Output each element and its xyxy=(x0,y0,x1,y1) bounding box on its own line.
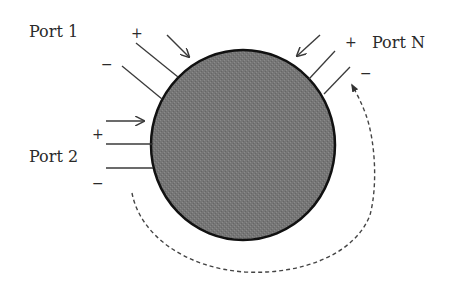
port-n-minus-terminal xyxy=(324,67,350,94)
port-n-current-arrow-icon xyxy=(297,35,320,56)
port-1-current-arrow-icon xyxy=(167,35,189,57)
port-n-plus-sign: + xyxy=(345,34,357,50)
network-body xyxy=(151,50,335,240)
port-n-label: Port N xyxy=(372,33,425,52)
port-n: Port N + − xyxy=(297,33,425,94)
port-2-label: Port 2 xyxy=(29,147,78,166)
port-1-label: Port 1 xyxy=(29,22,78,41)
port-2-minus-sign: − xyxy=(92,175,104,191)
port-1: Port 1 + − xyxy=(29,22,189,99)
port-2-plus-sign: + xyxy=(92,126,104,142)
port-1-minus-sign: − xyxy=(101,56,113,72)
port-1-plus-sign: + xyxy=(131,25,143,41)
port-1-plus-terminal xyxy=(136,43,178,77)
port-n-plus-terminal xyxy=(309,51,335,79)
port-1-minus-terminal xyxy=(122,66,162,99)
port-2: Port 2 + − xyxy=(29,121,153,191)
n-port-network-diagram: Port 1 + − Port 2 + − Port N + − xyxy=(0,0,454,286)
port-n-minus-sign: − xyxy=(360,65,372,81)
